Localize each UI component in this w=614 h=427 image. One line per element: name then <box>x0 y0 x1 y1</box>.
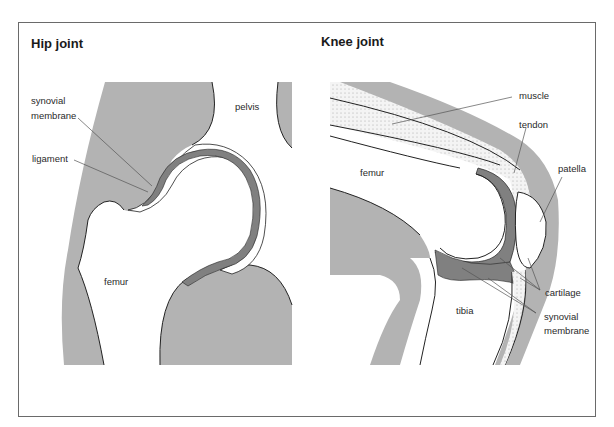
knee-label-muscle: muscle <box>519 89 549 103</box>
hip-label-synovial: synovial <box>31 94 65 108</box>
knee-femur-left <box>330 188 430 258</box>
hip-label-membrane: membrane <box>31 109 76 123</box>
knee-label-femur: femur <box>360 166 384 180</box>
knee-label-patella: patella <box>558 162 586 176</box>
joint-illustrations <box>0 0 614 427</box>
hip-joint-title: Hip joint <box>31 36 83 51</box>
knee-label-tendon: tendon <box>519 118 548 132</box>
knee-label-tibia: tibia <box>456 304 473 318</box>
knee-label-membrane: membrane <box>544 324 589 338</box>
hip-femur-base <box>160 265 292 365</box>
knee-label-synovial: synovial <box>544 310 578 324</box>
knee-label-cartilage: cartilage <box>545 286 581 300</box>
hip-label-pelvis: pelvis <box>235 100 259 114</box>
hip-label-femur: femur <box>104 275 128 289</box>
hip-label-ligament: ligament <box>32 152 68 166</box>
hip-joint-diagram <box>62 82 292 365</box>
knee-joint-title: Knee joint <box>321 34 384 49</box>
knee-tibia-left <box>330 258 421 365</box>
